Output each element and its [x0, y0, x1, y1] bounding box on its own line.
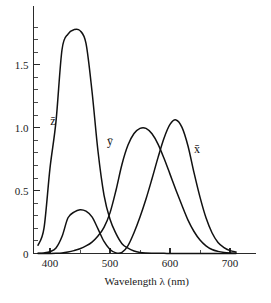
x-tick-label: 700: [222, 257, 239, 269]
x-axis-title: Wavelength λ (nm): [105, 275, 190, 288]
y-axis-minor-ticks: [34, 27, 38, 241]
curve-label-z-bar: z̄: [50, 114, 55, 128]
x-tick-label: 600: [162, 257, 179, 269]
x-tick-label: 400: [42, 257, 59, 269]
chart-canvas: 00.51.01.5 400500600700 z̄ȳx̄ Wavelengt…: [0, 0, 271, 303]
x-tick-label: 500: [102, 257, 119, 269]
y-tick-label: 0: [23, 248, 29, 260]
y-axis-major-ticks: [34, 65, 40, 254]
curve-y-bar: [38, 128, 236, 254]
y-tick-label: 1.0: [15, 122, 29, 134]
cie-color-matching-functions-figure: 00.51.01.5 400500600700 z̄ȳx̄ Wavelengt…: [0, 0, 271, 303]
curve-label-x-bar: x̄: [194, 142, 200, 156]
y-tick-label: 1.5: [15, 59, 29, 71]
curve-label-y-bar: ȳ: [107, 134, 113, 148]
curve-series-group: [38, 29, 236, 253]
y-axis-tick-labels: 00.51.01.5: [15, 59, 29, 260]
y-tick-label: 0.5: [15, 185, 29, 197]
curve-x-bar: [38, 120, 236, 253]
x-axis-tick-labels: 400500600700: [42, 257, 239, 269]
axes: [34, 6, 257, 254]
